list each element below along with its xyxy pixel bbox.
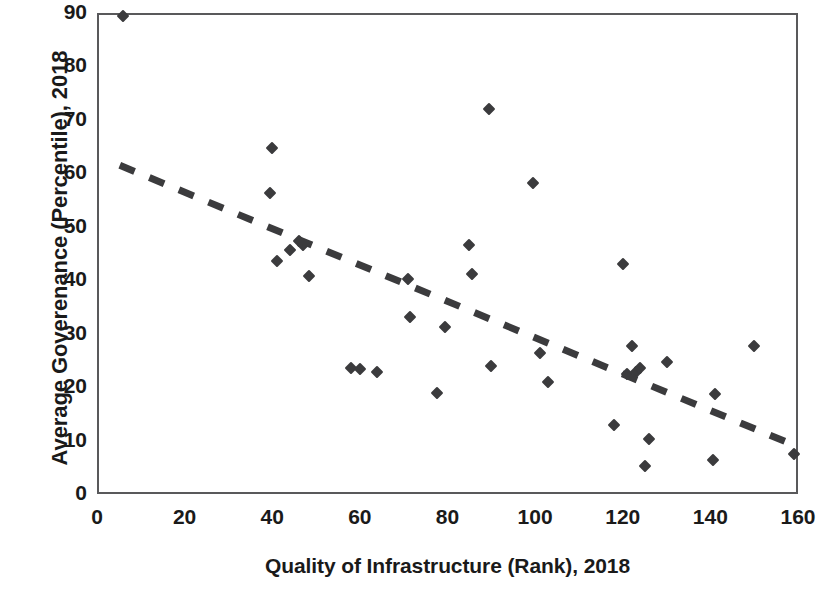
x-tick-label: 120 (593, 505, 653, 529)
data-point-marker (625, 340, 638, 353)
y-tick-label: 70 (43, 107, 87, 131)
data-point-marker (748, 340, 761, 353)
y-tick-label: 20 (43, 374, 87, 398)
y-tick-label: 0 (43, 481, 87, 505)
x-tick-label: 160 (768, 505, 823, 529)
data-point-marker (708, 387, 721, 400)
y-tick-label: 10 (43, 428, 87, 452)
y-tick-label: 30 (43, 321, 87, 345)
data-point-marker (483, 103, 496, 116)
data-point-marker (303, 270, 316, 283)
data-point-marker (706, 454, 719, 467)
data-point-marker (270, 255, 283, 268)
data-point-marker (402, 272, 415, 285)
data-point-marker (266, 142, 279, 155)
data-point-marker (354, 363, 367, 376)
x-tick-label: 100 (505, 505, 565, 529)
data-point-marker (439, 321, 452, 334)
x-tick-label: 0 (67, 505, 127, 529)
x-tick-label: 140 (680, 505, 740, 529)
data-point-marker (117, 9, 130, 22)
data-point-marker (660, 356, 673, 369)
data-point-marker (616, 258, 629, 271)
x-tick-label: 60 (330, 505, 390, 529)
data-point-marker (465, 267, 478, 280)
data-point-marker (643, 433, 656, 446)
data-point-marker (787, 448, 800, 461)
x-tick-label: 40 (242, 505, 302, 529)
plot-data-area (97, 13, 798, 494)
data-point-marker (527, 177, 540, 190)
scatter-chart: Average Goverenance (Percentile), 2018 0… (0, 0, 823, 599)
y-tick-label: 80 (43, 53, 87, 77)
data-point-marker (485, 360, 498, 373)
data-point-marker (608, 419, 621, 432)
data-point-marker (430, 387, 443, 400)
data-point-marker (463, 239, 476, 252)
data-point-marker (542, 376, 555, 389)
y-tick-label: 90 (43, 0, 87, 24)
data-point-marker (638, 460, 651, 473)
data-point-marker (371, 365, 384, 378)
x-tick-label: 20 (155, 505, 215, 529)
y-tick-label: 40 (43, 267, 87, 291)
data-point-marker (264, 187, 277, 200)
x-tick-label: 80 (418, 505, 478, 529)
data-point-marker (533, 347, 546, 360)
y-tick-label: 60 (43, 160, 87, 184)
data-point-marker (404, 310, 417, 323)
x-axis-title: Quality of Infrastructure (Rank), 2018 (97, 554, 798, 578)
data-point-marker (283, 244, 296, 257)
y-tick-label: 50 (43, 214, 87, 238)
